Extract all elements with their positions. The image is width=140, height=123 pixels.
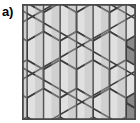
pattern-panel: [22, 4, 136, 120]
figure-panel-a: a): [0, 0, 140, 123]
tiling-pattern-graphic: [22, 4, 136, 120]
panel-label-a: a): [2, 3, 22, 21]
